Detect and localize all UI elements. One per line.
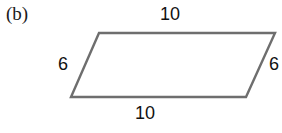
panel-label: (b): [6, 4, 28, 23]
dimension-label-top: 10: [160, 5, 180, 23]
dimension-label-right: 6: [269, 55, 279, 73]
parallelogram-outline: [71, 33, 275, 97]
figure-panel: (b) 10 10 6 6: [0, 0, 282, 133]
dimension-label-left: 6: [58, 55, 68, 73]
dimension-label-bottom: 10: [135, 104, 155, 122]
